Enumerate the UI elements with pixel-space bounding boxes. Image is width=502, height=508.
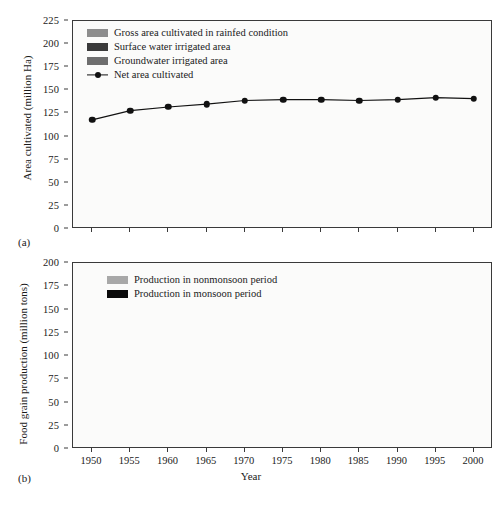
x-tick-mark xyxy=(320,228,321,232)
legend-item: Surface water irrigated area xyxy=(87,40,288,53)
legend-swatch-icon xyxy=(107,276,128,284)
y-tick-mark xyxy=(64,112,68,113)
y-tick-mark xyxy=(64,378,68,379)
y-tick-mark xyxy=(64,331,68,332)
y-tick-label: 0 xyxy=(54,223,59,234)
x-tick-mark xyxy=(282,228,283,232)
x-tick-mark xyxy=(435,448,436,452)
panel-a-y-axis: 0255075100125150175200225 xyxy=(28,20,68,228)
x-tick-mark xyxy=(129,228,130,232)
x-tick-mark xyxy=(244,228,245,232)
y-tick-label: 100 xyxy=(43,350,59,361)
panel-b-label: (b) xyxy=(18,472,31,484)
y-tick-label: 0 xyxy=(54,443,59,454)
y-tick-mark xyxy=(64,135,68,136)
x-tick-mark xyxy=(206,448,207,452)
panel-b-legend: Production in nonmonsoon periodProductio… xyxy=(107,273,277,301)
panel-a-plot-area: Gross area cultivated in rainfed conditi… xyxy=(72,20,492,228)
x-tick-label: 1985 xyxy=(348,455,369,466)
x-tick-label: 1995 xyxy=(424,455,445,466)
x-tick-label: 1980 xyxy=(310,455,331,466)
y-tick-label: 200 xyxy=(43,257,59,268)
x-tick-mark xyxy=(358,448,359,452)
x-tick-label: 1965 xyxy=(195,455,216,466)
legend-label: Groundwater irrigated area xyxy=(114,55,228,67)
x-tick-mark xyxy=(206,228,207,232)
y-tick-mark xyxy=(64,424,68,425)
x-tick-mark xyxy=(91,228,92,232)
x-tick-mark xyxy=(397,228,398,232)
bar-slot xyxy=(73,263,111,447)
x-tick-mark xyxy=(129,448,130,452)
legend-item: Groundwater irrigated area xyxy=(87,54,288,67)
y-tick-mark xyxy=(64,228,68,229)
y-tick-label: 150 xyxy=(43,303,59,314)
y-tick-mark xyxy=(64,89,68,90)
panel-b-x-axis-title: Year xyxy=(0,470,502,482)
panel-a: Area cultivated (million Ha) 02550751001… xyxy=(0,0,502,250)
legend-item: Production in monsoon period xyxy=(107,287,277,300)
x-tick-label: 2000 xyxy=(462,455,483,466)
bar-slot xyxy=(453,21,491,227)
x-tick-mark xyxy=(244,448,245,452)
bar-slot xyxy=(377,21,415,227)
panel-b-y-axis: 0255075100125150175200 xyxy=(28,262,68,448)
bar-slot xyxy=(301,263,339,447)
y-tick-label: 100 xyxy=(43,130,59,141)
bar-slot xyxy=(301,21,339,227)
y-tick-label: 125 xyxy=(43,326,59,337)
legend-swatch-icon xyxy=(107,290,128,298)
x-tick-label: 1990 xyxy=(386,455,407,466)
x-tick-mark xyxy=(167,228,168,232)
y-tick-mark xyxy=(64,401,68,402)
x-tick-label: 1955 xyxy=(119,455,140,466)
y-tick-mark xyxy=(64,158,68,159)
x-tick-mark xyxy=(435,228,436,232)
bar-slot xyxy=(415,263,453,447)
panel-a-label: (a) xyxy=(18,236,30,248)
bar-slot xyxy=(415,21,453,227)
panel-b-plot-area: Production in nonmonsoon periodProductio… xyxy=(72,262,492,448)
y-tick-mark xyxy=(64,448,68,449)
legend-label: Surface water irrigated area xyxy=(114,41,230,53)
y-tick-label: 50 xyxy=(48,176,59,187)
panel-a-x-ticks xyxy=(72,228,492,234)
x-tick-mark xyxy=(473,228,474,232)
x-tick-label: 1975 xyxy=(272,455,293,466)
legend-label: Production in nonmonsoon period xyxy=(134,274,277,286)
panel-a-legend: Gross area cultivated in rainfed conditi… xyxy=(87,26,288,82)
y-tick-label: 25 xyxy=(48,199,59,210)
legend-item: Production in nonmonsoon period xyxy=(107,273,277,286)
bar-slot xyxy=(339,263,377,447)
x-tick-mark xyxy=(473,448,474,452)
y-tick-mark xyxy=(64,20,68,21)
y-tick-label: 150 xyxy=(43,84,59,95)
x-tick-mark xyxy=(91,448,92,452)
legend-swatch-icon xyxy=(87,57,108,65)
bar-slot xyxy=(339,21,377,227)
y-tick-label: 175 xyxy=(43,61,59,72)
x-tick-mark xyxy=(320,448,321,452)
y-tick-label: 225 xyxy=(43,15,59,26)
x-tick-label: 1970 xyxy=(233,455,254,466)
bar-slot xyxy=(377,263,415,447)
panel-b: Food grain production (million tons) 025… xyxy=(0,250,502,508)
legend-label: Gross area cultivated in rainfed conditi… xyxy=(114,27,288,39)
legend-item: Net area cultivated xyxy=(87,68,288,81)
x-tick-label: 1960 xyxy=(157,455,178,466)
y-tick-label: 175 xyxy=(43,280,59,291)
y-tick-mark xyxy=(64,262,68,263)
y-tick-mark xyxy=(64,308,68,309)
y-tick-mark xyxy=(64,355,68,356)
y-tick-label: 200 xyxy=(43,38,59,49)
bar-slot xyxy=(453,263,491,447)
y-tick-mark xyxy=(64,285,68,286)
legend-swatch-icon xyxy=(87,29,108,37)
legend-item: Gross area cultivated in rainfed conditi… xyxy=(87,26,288,39)
y-tick-label: 75 xyxy=(48,153,59,164)
y-tick-label: 125 xyxy=(43,107,59,118)
legend-line-marker-icon xyxy=(87,71,108,79)
x-tick-mark xyxy=(358,228,359,232)
figure-root: Area cultivated (million Ha) 02550751001… xyxy=(0,0,502,508)
legend-label: Production in monsoon period xyxy=(134,288,261,300)
